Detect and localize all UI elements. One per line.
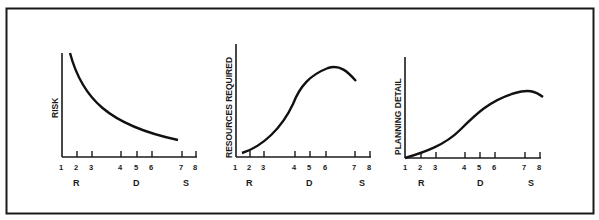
x-ticks: [77, 151, 196, 157]
svg-text:7: 7: [522, 163, 526, 172]
svg-text:R: R: [418, 178, 425, 188]
phase-labels: R D S: [418, 178, 534, 188]
svg-text:3: 3: [433, 163, 437, 172]
svg-text:4: 4: [462, 163, 467, 172]
svg-text:5: 5: [134, 163, 138, 172]
svg-text:5: 5: [477, 163, 481, 172]
svg-text:8: 8: [537, 163, 541, 172]
planning-detail-curve: [405, 91, 543, 158]
figure-frame: [7, 9, 594, 214]
svg-text:2: 2: [418, 163, 422, 172]
chart-planning-detail: PLANNING DETAIL 1 2 3 4 5 6 7 8 R D S: [393, 57, 543, 188]
chart-resources: RESOURCES REQUIRED 1 2 3 4 5 6 7 8 R D S: [224, 44, 371, 188]
x-ticks: [250, 151, 370, 157]
svg-text:4: 4: [118, 163, 123, 172]
svg-text:3: 3: [261, 163, 265, 172]
tick-labels: 1 2 3 4 5 6 7 8: [233, 163, 371, 172]
svg-text:1: 1: [403, 163, 407, 172]
chart-risk: RISK 1 2 3 4 5 6 7 8 R D S: [50, 53, 197, 188]
svg-text:3: 3: [89, 163, 93, 172]
svg-text:5: 5: [307, 163, 311, 172]
figure-canvas: RISK 1 2 3 4 5 6 7 8 R D S RESOURCES REQ…: [0, 0, 599, 220]
svg-text:D: D: [306, 178, 313, 188]
y-axis-label: RESOURCES REQUIRED: [224, 57, 234, 158]
tick-labels: 1 2 3 4 5 6 7 8: [59, 163, 197, 172]
svg-text:1: 1: [233, 163, 237, 172]
y-axis-label: RISK: [50, 97, 60, 118]
y-axis-label: PLANNING DETAIL: [393, 78, 403, 155]
svg-text:7: 7: [179, 163, 183, 172]
svg-text:S: S: [183, 178, 189, 188]
svg-text:D: D: [133, 178, 140, 188]
svg-text:D: D: [477, 178, 484, 188]
svg-text:1: 1: [59, 163, 63, 172]
phase-labels: R D S: [246, 178, 365, 188]
svg-text:7: 7: [352, 163, 356, 172]
svg-text:8: 8: [367, 163, 371, 172]
resources-curve: [242, 67, 356, 153]
svg-text:8: 8: [193, 163, 197, 172]
svg-text:6: 6: [323, 163, 327, 172]
svg-text:R: R: [73, 178, 80, 188]
svg-text:6: 6: [149, 163, 153, 172]
x-ticks: [421, 152, 540, 158]
svg-text:S: S: [528, 178, 534, 188]
svg-text:6: 6: [492, 163, 496, 172]
tick-labels: 1 2 3 4 5 6 7 8: [403, 163, 541, 172]
svg-text:S: S: [359, 178, 365, 188]
svg-text:2: 2: [247, 163, 251, 172]
phase-labels: R D S: [73, 178, 189, 188]
svg-text:4: 4: [292, 163, 297, 172]
risk-curve: [70, 53, 178, 140]
svg-text:2: 2: [74, 163, 78, 172]
svg-text:R: R: [246, 178, 253, 188]
